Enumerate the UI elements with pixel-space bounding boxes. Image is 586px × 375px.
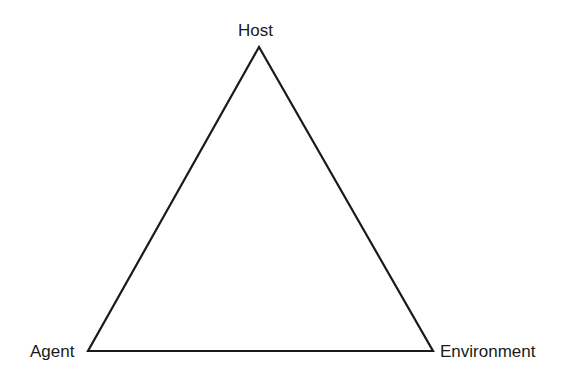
- node-label-host: Host: [238, 22, 273, 39]
- triangle-shape: [0, 0, 586, 375]
- node-label-environment: Environment: [440, 343, 535, 360]
- triangle-outline: [88, 47, 433, 351]
- triangle-diagram: Host Agent Environment: [0, 0, 586, 375]
- node-label-agent: Agent: [30, 343, 74, 360]
